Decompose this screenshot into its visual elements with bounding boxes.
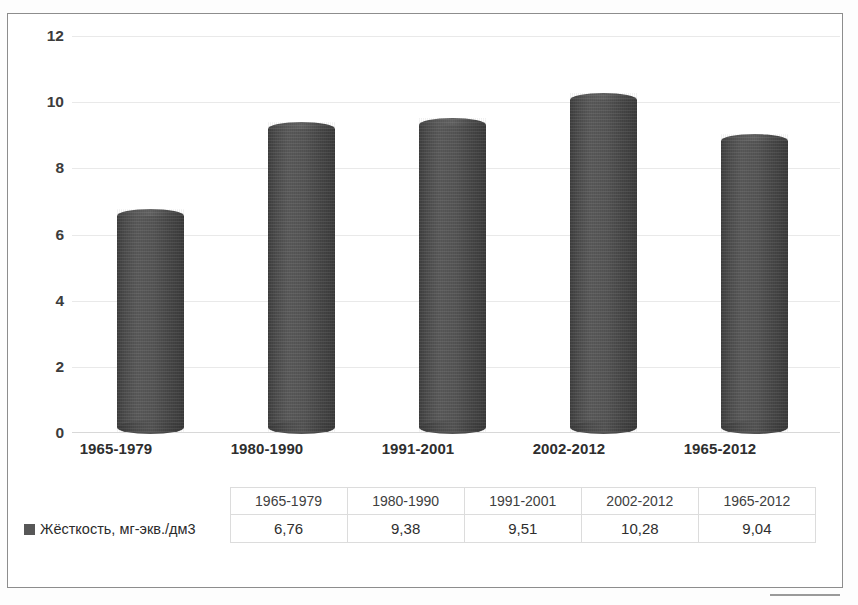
y-axis-tick-4: 4 [18, 292, 64, 310]
bar-body [419, 125, 486, 427]
x-axis-label-3: 2002-2012 [494, 440, 644, 457]
bar-1980-1990[interactable] [268, 122, 335, 432]
table-value-1: 9,38 [347, 515, 464, 543]
table-header-2: 1991-2001 [464, 488, 581, 515]
table-value-4: 9,04 [698, 515, 815, 543]
scan-artifact-mark [770, 594, 840, 596]
scanned-page: 12 10 8 6 4 2 0 [0, 0, 858, 605]
bar-2002-2012[interactable] [570, 93, 637, 432]
table-data-row: Жёсткость, мг-экв./дм3 6,76 9,38 9,51 10… [16, 515, 816, 543]
y-axis-tick-10: 10 [18, 93, 64, 111]
bar-cap-bottom [268, 421, 335, 434]
legend-swatch-icon [24, 524, 35, 535]
bar-1965-2012[interactable] [721, 134, 788, 432]
x-axis-label-1: 1980-1990 [192, 440, 342, 457]
y-axis-tick-8: 8 [18, 159, 64, 177]
table-corner-cell [16, 488, 230, 515]
legend-row-label: Жёсткость, мг-экв./дм3 [16, 515, 230, 543]
table-value-3: 10,28 [581, 515, 698, 543]
y-axis-tick-12: 12 [18, 27, 64, 45]
table-header-row: 1965-1979 1980-1990 1991-2001 2002-2012 … [16, 488, 816, 515]
x-axis-label-2: 1991-2001 [343, 440, 493, 457]
x-axis-label-4: 1965-2012 [645, 440, 795, 457]
gridline-12 [72, 36, 840, 37]
table-value-0: 6,76 [230, 515, 347, 543]
bar-body [570, 100, 637, 427]
bar-1965-1979[interactable] [117, 209, 184, 432]
bar-cap-bottom [117, 421, 184, 434]
x-axis-label-0: 1965-1979 [41, 440, 191, 457]
bar-body [268, 129, 335, 427]
bar-cap-bottom [419, 421, 486, 434]
bar-body [117, 216, 184, 427]
table-header-1: 1980-1990 [347, 488, 464, 515]
bar-cap-bottom [721, 421, 788, 434]
table-header-0: 1965-1979 [230, 488, 347, 515]
bar-1991-2001[interactable] [419, 118, 486, 432]
table-header-3: 2002-2012 [581, 488, 698, 515]
table-header-4: 1965-2012 [698, 488, 815, 515]
bar-body [721, 141, 788, 427]
y-axis-tick-6: 6 [18, 226, 64, 244]
legend-series-name: Жёсткость, мг-экв./дм3 [40, 521, 196, 537]
data-table: 1965-1979 1980-1990 1991-2001 2002-2012 … [16, 487, 816, 543]
bar-cap-bottom [570, 421, 637, 434]
gridline-10 [72, 102, 840, 103]
table-value-2: 9,51 [464, 515, 581, 543]
plot-area [72, 36, 840, 433]
y-axis-tick-2: 2 [18, 358, 64, 376]
